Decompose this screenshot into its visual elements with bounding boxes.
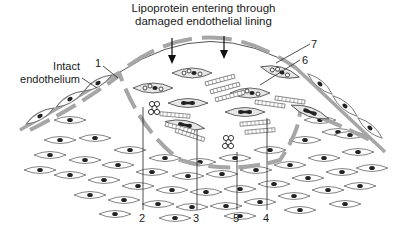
collagen-fibers bbox=[160, 74, 305, 141]
diagram-canvas bbox=[0, 0, 407, 239]
damaged-endothelium bbox=[128, 37, 296, 68]
intact-endothelium-label-line-2: endothelium bbox=[6, 73, 80, 86]
intact-endothelium-label-line-1: Intact bbox=[20, 60, 80, 73]
title-line-1: Lipoprotein entering through bbox=[0, 2, 407, 15]
callout-1: 1 bbox=[95, 57, 101, 70]
callout-7: 7 bbox=[311, 38, 317, 51]
callout-6: 6 bbox=[302, 54, 308, 67]
figure-title: Lipoprotein entering through damaged end… bbox=[0, 2, 407, 28]
callout-2: 2 bbox=[139, 212, 145, 225]
callout-5: 5 bbox=[233, 212, 239, 225]
media-cell-layer bbox=[24, 117, 388, 222]
atherosclerotic-plaque-diagram: Lipoprotein entering through damaged end… bbox=[0, 0, 407, 239]
intact-endothelium-label: Intact endothelium bbox=[20, 60, 80, 86]
title-line-2: damaged endothelial lining bbox=[0, 15, 407, 28]
callout-3: 3 bbox=[193, 212, 199, 225]
callout-4: 4 bbox=[263, 212, 269, 225]
